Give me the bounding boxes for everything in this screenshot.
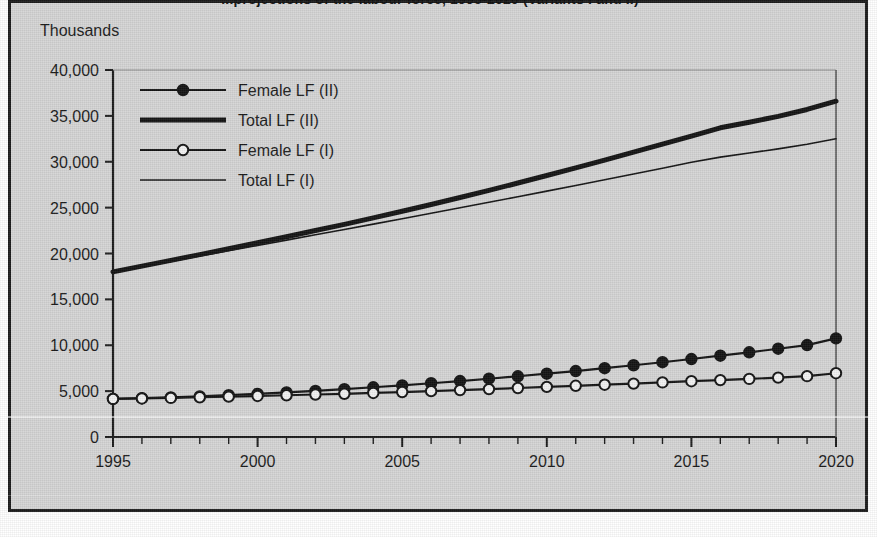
series-female-lf-i (108, 368, 841, 404)
legend-label: Total LF (I) (238, 172, 314, 189)
y-tick-label: 20,000 (50, 246, 99, 263)
x-tick-label: 2015 (674, 453, 710, 470)
y-tick-label: 10,000 (50, 337, 99, 354)
x-tick-label: 2020 (818, 453, 854, 470)
y-tick-label: 35,000 (50, 108, 99, 125)
legend-swatch (140, 85, 226, 95)
y-tick-label: 25,000 (50, 200, 99, 217)
series-total-lf-i (113, 139, 836, 272)
x-axis-ticks: 199520002005201020152020 (95, 437, 854, 470)
y-tick-label: 40,000 (50, 62, 99, 79)
y-tick-label: 15,000 (50, 291, 99, 308)
x-tick-label: 2005 (384, 453, 420, 470)
x-tick-label: 2000 (240, 453, 276, 470)
x-tick-label: 2010 (529, 453, 565, 470)
y-axis-ticks: 05,00010,00015,00020,00025,00030,00035,0… (50, 62, 113, 446)
chart-plot: 05,00010,00015,00020,00025,00030,00035,0… (0, 0, 877, 537)
legend-item-female-lf-i: Female LF (I) (140, 142, 334, 159)
y-tick-label: 5,000 (59, 383, 99, 400)
series-total-lf-ii (113, 101, 836, 272)
x-tick-label: 1995 (95, 453, 131, 470)
y-tick-label: 0 (90, 429, 99, 446)
legend-item-female-lf-ii: Female LF (II) (140, 82, 338, 99)
data-series-layer (108, 101, 841, 404)
legend-swatch (140, 145, 226, 155)
figure-panel: ...projections of the labour force, 1995… (0, 0, 877, 537)
legend-label: Total LF (II) (238, 112, 319, 129)
legend-label: Female LF (II) (238, 82, 338, 99)
series-female-lf-ii (108, 333, 841, 404)
legend-item-total-lf-i: Total LF (I) (140, 172, 314, 189)
y-tick-label: 30,000 (50, 154, 99, 171)
legend-item-total-lf-ii: Total LF (II) (140, 112, 319, 129)
legend-label: Female LF (I) (238, 142, 334, 159)
chart-legend: Female LF (II)Total LF (II)Female LF (I)… (140, 82, 338, 189)
